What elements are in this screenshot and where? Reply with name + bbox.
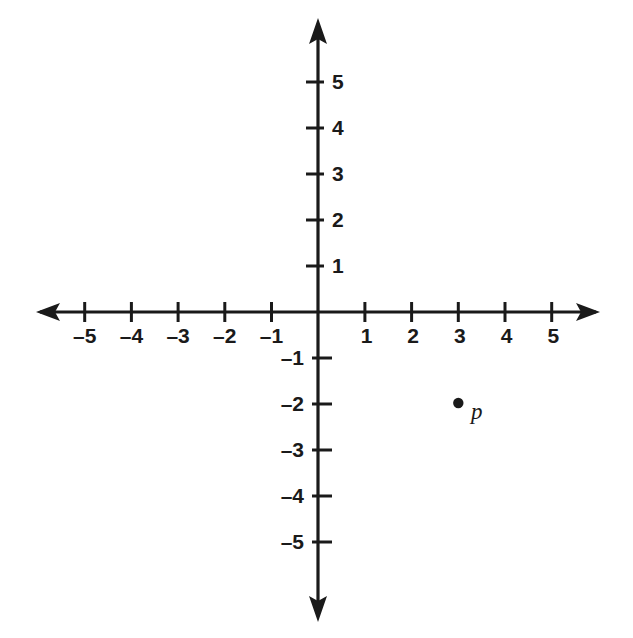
y-tick-label--4: –4 xyxy=(281,484,305,507)
y-tick-label-3: 3 xyxy=(332,162,344,185)
x-tick-label--4: –4 xyxy=(120,324,144,347)
data-point-label-p: p xyxy=(469,399,483,424)
y-tick-label-4: 4 xyxy=(332,116,344,139)
y-tick-label-1: 1 xyxy=(332,254,344,277)
x-tick-label-3: 3 xyxy=(454,324,466,347)
x-tick-label-2: 2 xyxy=(407,324,419,347)
y-tick-label--5: –5 xyxy=(281,530,305,553)
x-tick-label--3: –3 xyxy=(166,324,189,347)
y-tick-label--3: –3 xyxy=(281,438,304,461)
y-tick-label-2: 2 xyxy=(332,208,344,231)
cartesian-plane-svg: –5 –4 –3 –2 –1 1 2 3 4 5 1 2 3 4 5 –1 –2… xyxy=(0,0,633,638)
data-point-p xyxy=(453,398,463,408)
x-tick-label-4: 4 xyxy=(501,324,513,347)
x-tick-label--5: –5 xyxy=(73,324,97,347)
x-tick-label--1: –1 xyxy=(260,324,284,347)
y-tick-label--2: –2 xyxy=(281,392,304,415)
x-tick-label-5: 5 xyxy=(547,324,559,347)
x-tick-label-1: 1 xyxy=(361,324,373,347)
x-tick-label--2: –2 xyxy=(213,324,236,347)
y-tick-label--1: –1 xyxy=(281,346,305,369)
y-tick-label-5: 5 xyxy=(332,70,344,93)
coordinate-plane-figure: –5 –4 –3 –2 –1 1 2 3 4 5 1 2 3 4 5 –1 –2… xyxy=(0,0,633,638)
